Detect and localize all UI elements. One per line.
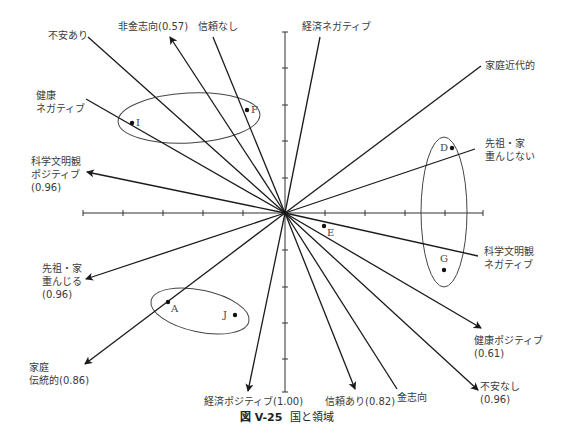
label-kenko-negative-line2: ネガティブ bbox=[36, 102, 85, 115]
label-kin-shiko: 金志向 bbox=[397, 391, 427, 404]
label-senzo-omonjiru-line2: 重んじる bbox=[42, 275, 82, 288]
vector-senzo-omonjiru bbox=[86, 213, 285, 279]
vector-katei-dentoteki bbox=[85, 213, 285, 364]
label-keizai-positive: 経済ポジティブ(1.00) bbox=[204, 395, 303, 408]
label-kagaku-positive-line3: (0.96) bbox=[31, 181, 81, 194]
label-katei-dentoteki-line1: 家庭 bbox=[29, 361, 89, 374]
point-label-g: G bbox=[440, 253, 448, 264]
vector-keizai-negative bbox=[285, 37, 320, 213]
label-senzo-omonjiru-line3: (0.96) bbox=[42, 288, 82, 301]
label-senzo-omonjiru-line1: 先祖・家 bbox=[42, 262, 82, 275]
label-katei-kindaiteki: 家庭近代的 bbox=[485, 59, 535, 72]
label-senzo-omonjiru: 先祖・家 重んじる (0.96) bbox=[42, 262, 82, 301]
figure-caption: 図 V-25国と領域 bbox=[240, 408, 334, 424]
label-katei-dentoteki-line2: 伝統的(0.86) bbox=[29, 374, 89, 387]
label-kenko-positive: 健康ポジティブ (0.61) bbox=[474, 334, 543, 360]
label-senzo-omonjinai-line1: 先祖・家 bbox=[485, 137, 535, 150]
label-hikin-shiko: 非金志向(0.57) bbox=[118, 20, 188, 33]
point-g bbox=[442, 268, 446, 272]
vector-kagaku-negative bbox=[285, 213, 478, 256]
point-a bbox=[166, 300, 170, 304]
point-label-i: I bbox=[136, 117, 140, 128]
label-kagaku-negative-line2: ネガティブ bbox=[484, 258, 534, 271]
point-label-e: E bbox=[327, 227, 334, 238]
label-kenko-positive-line2: (0.61) bbox=[474, 347, 543, 360]
label-fuan-ari: 不安あり bbox=[48, 29, 88, 42]
vector-keizai-positive bbox=[248, 213, 285, 391]
label-kenko-negative: 健康 ネガティブ bbox=[36, 89, 85, 115]
label-shinrai-ari: 信頼あり(0.82) bbox=[325, 395, 395, 408]
label-shinrai-nashi: 信頼なし bbox=[198, 20, 238, 33]
point-f bbox=[245, 108, 249, 112]
label-kagaku-negative: 科学文明観 ネガティブ bbox=[484, 245, 534, 271]
point-label-f: F bbox=[251, 104, 258, 115]
vector-kagaku-positive bbox=[87, 172, 285, 213]
vector-shinrai-nashi bbox=[213, 37, 285, 213]
point-label-j: J bbox=[222, 309, 227, 320]
point-j bbox=[233, 313, 237, 317]
variable-vectors bbox=[85, 37, 481, 391]
cluster-ellipses bbox=[117, 89, 467, 342]
point-i bbox=[130, 121, 134, 125]
label-kenko-negative-line1: 健康 bbox=[36, 89, 85, 102]
label-kagaku-positive-line1: 科学文明観 bbox=[31, 155, 81, 168]
vector-katei-kindaiteki bbox=[285, 66, 481, 213]
figure-number: 図 V-25 bbox=[240, 411, 282, 424]
label-kenko-positive-line1: 健康ポジティブ bbox=[474, 334, 543, 347]
vector-shinrai-ari bbox=[285, 213, 355, 389]
vector-senzo-omonjinai bbox=[285, 149, 475, 213]
label-fuan-nashi-line2: (0.96) bbox=[480, 393, 520, 406]
vector-kenko-positive bbox=[285, 213, 481, 328]
point-d bbox=[450, 146, 454, 150]
figure-title: 国と領域 bbox=[290, 411, 334, 424]
vector-kenko-negative bbox=[86, 99, 285, 213]
label-fuan-nashi: 不安なし (0.96) bbox=[480, 380, 520, 406]
label-kagaku-positive-line2: ポジティブ bbox=[31, 168, 81, 181]
label-fuan-nashi-line1: 不安なし bbox=[480, 380, 520, 393]
label-kagaku-positive: 科学文明観 ポジティブ (0.96) bbox=[31, 155, 81, 194]
label-senzo-omonjinai-line2: 重んじない bbox=[485, 150, 535, 163]
label-senzo-omonjinai: 先祖・家 重んじない bbox=[485, 137, 535, 163]
cluster-ellipse-a-j bbox=[147, 280, 254, 342]
point-label-d: D bbox=[440, 142, 448, 153]
label-kagaku-negative-line1: 科学文明観 bbox=[484, 245, 534, 258]
label-katei-dentoteki: 家庭 伝統的(0.86) bbox=[29, 361, 89, 387]
point-e bbox=[322, 224, 326, 228]
label-keizai-negative: 経済ネガティブ bbox=[302, 20, 371, 33]
point-label-a: A bbox=[170, 303, 179, 314]
